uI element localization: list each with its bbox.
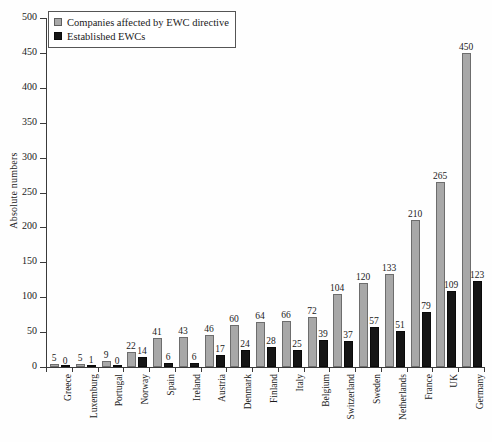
- bar-value-label: 41: [145, 327, 169, 337]
- y-tick: 200: [40, 227, 46, 228]
- x-axis-label-france: France: [424, 374, 434, 400]
- y-tick: 300: [40, 158, 46, 159]
- x-tick: [149, 367, 150, 372]
- y-tick-label: 500: [22, 11, 37, 22]
- x-axis-label-italy: Italy: [295, 374, 305, 391]
- bar-value-label: 46: [197, 324, 221, 334]
- bar-group: 12057: [357, 18, 383, 367]
- x-tick: [98, 367, 99, 372]
- x-tick: [123, 367, 124, 372]
- x-tick: [201, 367, 202, 372]
- bar-value-label: 123: [465, 270, 489, 280]
- bar-group: 50: [48, 18, 74, 367]
- bar-established-ewcs: [164, 363, 173, 367]
- y-tick-label: 250: [22, 186, 37, 197]
- bar-value-label: 120: [351, 272, 375, 282]
- bar-group: 436: [177, 18, 203, 367]
- bar-value-label: 133: [377, 263, 401, 273]
- y-tick: 100: [40, 297, 46, 298]
- y-tick-label: 50: [27, 325, 37, 336]
- bar-group: 21079: [409, 18, 435, 367]
- bar-group: 7239: [306, 18, 332, 367]
- x-axis-label-portugal: Portugal: [114, 374, 124, 406]
- x-axis-label-luxemburg: Luxemburg: [89, 374, 99, 418]
- bar-companies-affected: [462, 53, 471, 367]
- x-tick: [458, 367, 459, 372]
- bar-established-ewcs: [241, 350, 250, 367]
- x-axis-label-ireland: Ireland: [192, 374, 202, 401]
- x-tick: [46, 367, 47, 372]
- x-tick: [252, 367, 253, 372]
- x-tick: [355, 367, 356, 372]
- y-tick: 150: [40, 262, 46, 263]
- bar-value-label: 60: [222, 314, 246, 324]
- chart-page: Absolute numbers 05010015020025030035040…: [0, 0, 492, 442]
- y-tick: 250: [40, 193, 46, 194]
- x-axis-label-spain: Spain: [166, 374, 176, 396]
- bar-value-label: 64: [248, 311, 272, 321]
- bar-established-ewcs: [447, 291, 456, 367]
- x-tick: [329, 367, 330, 372]
- bar-established-ewcs: [319, 340, 328, 367]
- bar-group: 10437: [331, 18, 357, 367]
- bar-value-label: 66: [274, 310, 298, 320]
- bar-established-ewcs: [370, 327, 379, 367]
- x-axis-label-greece: Greece: [63, 374, 73, 401]
- x-axis-line: [46, 367, 484, 368]
- x-axis-label-belgium: Belgium: [321, 374, 331, 407]
- y-tick: 350: [40, 123, 46, 124]
- legend-item-established: Established EWCs: [54, 29, 229, 43]
- legend-label: Established EWCs: [67, 31, 145, 42]
- bar-established-ewcs: [267, 347, 276, 367]
- x-tick: [278, 367, 279, 372]
- bar-established-ewcs: [138, 357, 147, 367]
- x-axis-label-austria: Austria: [217, 374, 227, 402]
- bar-value-label: 450: [454, 42, 478, 52]
- chart-legend: Companies affected by EWC directive Esta…: [48, 11, 236, 48]
- bar-companies-affected: [308, 317, 317, 367]
- bar-companies-affected: [411, 220, 420, 367]
- y-tick: 450: [40, 53, 46, 54]
- bar-group: 13351: [383, 18, 409, 367]
- x-axis-label-norway: Norway: [140, 374, 150, 405]
- x-axis-label-sweden: Sweden: [372, 374, 382, 404]
- legend-swatch-gray-icon: [54, 18, 62, 26]
- y-tick: 500: [40, 18, 46, 19]
- y-tick-label: 450: [22, 46, 37, 57]
- bar-value-label: 210: [403, 209, 427, 219]
- y-tick-label: 100: [22, 290, 37, 301]
- bar-established-ewcs: [293, 350, 302, 367]
- bar-group: 51: [74, 18, 100, 367]
- x-axis-label-uk: UK: [449, 374, 459, 388]
- y-axis-line: [46, 18, 47, 367]
- x-tick: [432, 367, 433, 372]
- bar-established-ewcs: [422, 312, 431, 367]
- x-axis-label-switzerland: Switzerland: [346, 374, 356, 419]
- x-tick: [381, 367, 382, 372]
- y-tick-label: 200: [22, 220, 37, 231]
- y-tick-label: 400: [22, 81, 37, 92]
- y-axis-title: Absolute numbers: [8, 131, 19, 251]
- x-tick: [407, 367, 408, 372]
- bar-group: 450123: [460, 18, 486, 367]
- y-tick-label: 0: [32, 360, 37, 371]
- x-tick: [226, 367, 227, 372]
- bar-group: 2214: [125, 18, 151, 367]
- bar-established-ewcs: [190, 363, 199, 367]
- bar-established-ewcs: [473, 281, 482, 367]
- bar-value-label: 72: [300, 306, 324, 316]
- x-tick: [72, 367, 73, 372]
- y-tick: 50: [40, 332, 46, 333]
- y-tick-label: 150: [22, 255, 37, 266]
- bar-established-ewcs: [216, 355, 225, 367]
- bar-value-label: 43: [171, 326, 195, 336]
- y-tick: 400: [40, 88, 46, 89]
- x-tick: [304, 367, 305, 372]
- bar-value-label: 104: [325, 283, 349, 293]
- bar-value-label: 265: [428, 171, 452, 181]
- legend-label: Companies affected by EWC directive: [67, 17, 229, 28]
- x-tick: [175, 367, 176, 372]
- bar-group: 416: [151, 18, 177, 367]
- bar-established-ewcs: [396, 331, 405, 367]
- legend-swatch-black-icon: [54, 32, 62, 40]
